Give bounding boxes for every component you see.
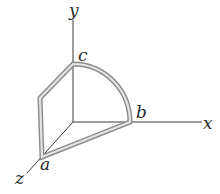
point-c-label: c (78, 45, 88, 65)
x-axis-label: x (203, 113, 213, 133)
z-axis-label: z (14, 168, 25, 188)
point-b-label: b (136, 102, 147, 122)
point-a-label: a (40, 154, 50, 174)
y-axis-label: y (68, 0, 79, 20)
diagram-canvas: y x z c b a (0, 0, 220, 194)
